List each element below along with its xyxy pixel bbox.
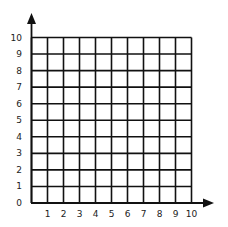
grid-lines	[32, 38, 192, 204]
y-tick-label: 9	[16, 49, 22, 59]
y-tick-label: 10	[11, 33, 23, 43]
x-tick-label: 7	[141, 209, 147, 219]
x-tick-label: 2	[61, 209, 67, 219]
x-axis	[31, 199, 214, 208]
x-tick-label: 9	[173, 209, 179, 219]
y-tick-label: 6	[16, 99, 22, 109]
y-tick-label: 7	[16, 82, 22, 92]
y-tick-label: 5	[16, 115, 22, 125]
x-axis-arrow-icon	[203, 199, 214, 208]
x-axis-labels: 12345678910	[45, 209, 198, 219]
y-tick-label: 3	[16, 148, 22, 158]
y-axis-labels: 012345678910	[11, 33, 23, 209]
y-tick-label: 1	[16, 181, 22, 191]
coordinate-grid: 012345678910 12345678910	[0, 0, 228, 227]
y-tick-label: 4	[16, 132, 22, 142]
x-tick-label: 1	[45, 209, 51, 219]
x-tick-label: 8	[157, 209, 163, 219]
x-tick-label: 4	[93, 209, 99, 219]
x-tick-label: 10	[186, 209, 198, 219]
x-tick-label: 6	[125, 209, 131, 219]
y-tick-label: 2	[16, 165, 22, 175]
x-tick-label: 5	[109, 209, 115, 219]
y-tick-label: 8	[16, 66, 22, 76]
y-tick-label: 0	[16, 198, 22, 208]
x-tick-label: 3	[77, 209, 83, 219]
y-axis	[27, 13, 36, 203]
y-axis-arrow-icon	[27, 13, 36, 24]
